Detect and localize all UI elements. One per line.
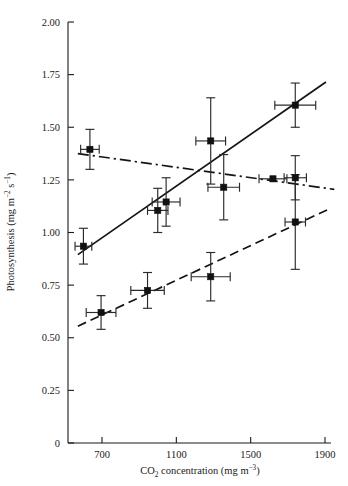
data-point-marker xyxy=(292,219,298,225)
figure-canvas: 00.250.500.751.001.251.501.752.00 700110… xyxy=(0,0,348,486)
y-tick-label: 0.25 xyxy=(42,385,60,396)
data-point-marker xyxy=(87,146,93,152)
data-point-marker xyxy=(80,243,86,249)
y-tick-label: 0 xyxy=(55,438,60,449)
x-tick-label: 1900 xyxy=(315,449,336,460)
data-point-marker xyxy=(208,274,214,280)
y-tick-label: 1.00 xyxy=(42,227,60,238)
y-tick-label: 0.50 xyxy=(42,332,60,343)
data-point-marker xyxy=(98,309,104,315)
x-tick-label: 700 xyxy=(94,449,110,460)
data-point-marker xyxy=(221,184,227,190)
y-axis-title: Photosynthesis (mg m−2 s−1) xyxy=(4,172,17,291)
y-tick-label: 1.50 xyxy=(42,122,60,133)
y-tick-label: 0.75 xyxy=(42,280,60,291)
data-point-marker xyxy=(292,102,298,108)
data-point-marker xyxy=(208,138,214,144)
x-tick-label: 1500 xyxy=(240,449,261,460)
y-tick-label: 1.75 xyxy=(42,69,60,80)
y-tick-label: 2.00 xyxy=(42,17,60,28)
data-point-marker xyxy=(292,175,298,181)
x-tick-label: 1100 xyxy=(166,449,187,460)
y-tick-label: 1.25 xyxy=(42,175,60,186)
data-point-marker xyxy=(144,287,150,293)
data-point-marker xyxy=(155,207,161,213)
scatter-plot-svg: 00.250.500.751.001.251.501.752.00 700110… xyxy=(0,0,348,486)
data-point-marker xyxy=(270,176,276,182)
data-point-marker xyxy=(163,199,169,205)
